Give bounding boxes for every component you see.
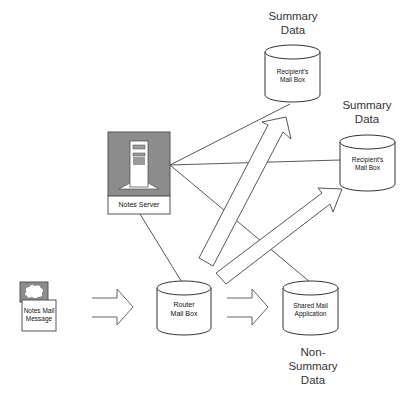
- label-notes-mail-message: Notes Mail Message: [22, 307, 56, 323]
- caption-summary-data-2: Summary Data: [337, 98, 397, 126]
- label-line: Notes Mail: [22, 307, 56, 315]
- caption-line: Non-: [280, 345, 346, 359]
- diagram-canvas: [0, 0, 417, 399]
- label-line: Router: [157, 300, 211, 309]
- label-shared-mail-application: Shared Mail Application: [283, 302, 338, 318]
- caption-summary-data-1: Summary Data: [263, 9, 323, 37]
- label-line: Application: [283, 310, 338, 318]
- caption-line: Data: [280, 373, 346, 387]
- label-line: Recipient's: [265, 68, 320, 76]
- label-recipient-mailbox-1: Recipient's Mail Box: [265, 68, 320, 84]
- arrow-router-to-shared-mail: [227, 289, 268, 325]
- label-line: Notes Server: [119, 201, 160, 208]
- arrow-message-to-router: [92, 289, 133, 325]
- caption-line: Summary: [280, 359, 346, 373]
- caption-line: Data: [337, 112, 397, 126]
- label-router-mailbox: Router Mail Box: [157, 300, 211, 318]
- label-line: Mail Box: [157, 309, 211, 318]
- label-recipient-mailbox-2: Recipient's Mail Box: [340, 156, 395, 172]
- label-line: Recipient's: [340, 156, 395, 164]
- label-line: Mail Box: [265, 76, 320, 84]
- line-server-to-router: [140, 214, 183, 284]
- label-line: Message: [22, 315, 56, 323]
- label-notes-server: Notes Server: [108, 200, 170, 210]
- hollow-arrows-upward: [199, 117, 342, 284]
- caption-line: Summary: [337, 98, 397, 112]
- caption-line: Summary: [263, 9, 323, 23]
- label-line: Mail Box: [340, 164, 395, 172]
- caption-line: Data: [263, 23, 323, 37]
- label-line: Shared Mail: [283, 302, 338, 310]
- caption-non-summary-data: Non- Summary Data: [280, 345, 346, 387]
- cloud-icon: [25, 285, 44, 299]
